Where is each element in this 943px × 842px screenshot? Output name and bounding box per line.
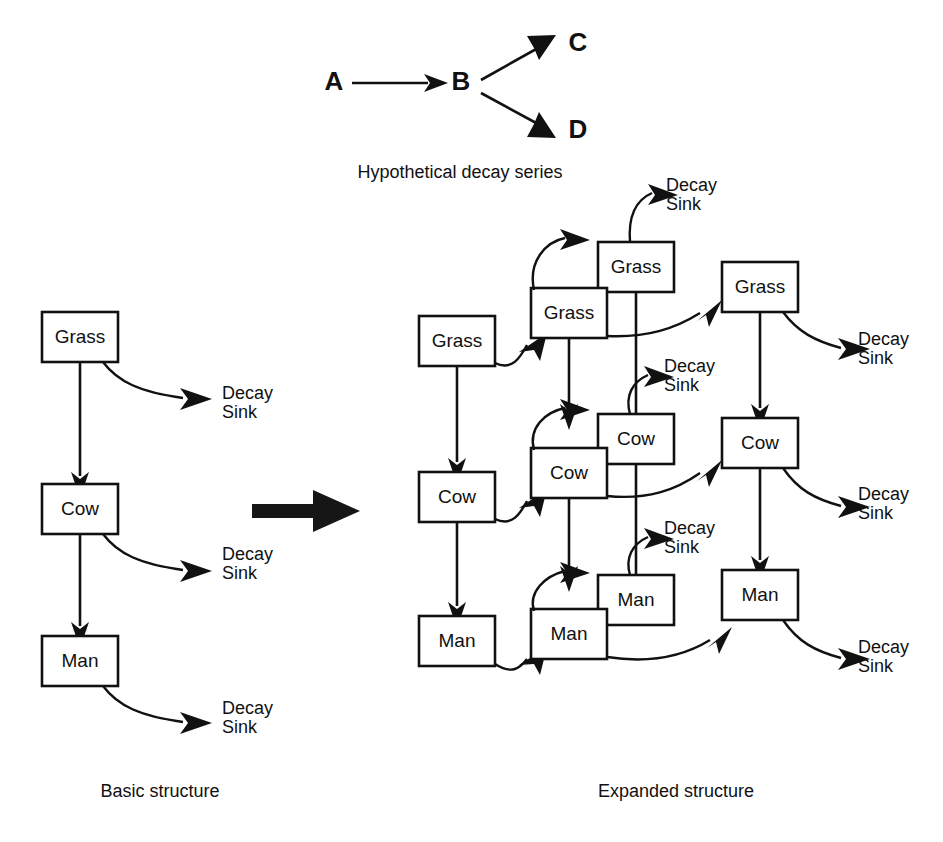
expanded-transfer-grass-daughter-to-gd [607, 300, 722, 336]
sink-text-line1: Decay [222, 698, 273, 718]
sink-text-line1: Decay [664, 518, 715, 538]
expanded-box-grass-daughter-back-label: Grass [611, 256, 662, 277]
expanded-transfer-grass-gd-cow-gd [751, 312, 769, 430]
basic-box-grass[interactable]: Grass [42, 312, 118, 362]
expanded-box-cow-gd-label: Cow [741, 432, 779, 453]
basic-sink-label-grass: Decay Sink [222, 383, 273, 422]
expanded-transfer-cow-gd-man-gd [751, 468, 769, 582]
sink-text-line1: Decay [222, 383, 273, 403]
sink-text-line2: Sink [222, 563, 258, 583]
basic-transfer-cow-man [71, 534, 89, 648]
expanded-box-man-gd[interactable]: Man [722, 570, 798, 620]
sink-text-line2: Sink [858, 503, 894, 523]
expanded-sink-arrow-cow-gd [783, 468, 870, 518]
decay-edge-b-c [481, 35, 556, 80]
expanded-box-man-daughter-back-label: Man [618, 589, 655, 610]
expanded-sink-label-man-daughter: Decay Sink [664, 518, 715, 557]
expanded-structure-caption: Expanded structure [598, 781, 754, 801]
expanded-box-cow-parent-label: Cow [438, 486, 476, 507]
expanded-structure: Grass Cow Man [419, 175, 909, 801]
decay-edge-a-b [352, 74, 448, 92]
expanded-box-grass-daughter-front-label: Grass [544, 302, 595, 323]
basic-structure: Grass Decay Sink Cow [42, 312, 273, 801]
expanded-sink-label-grass-daughter: Decay Sink [666, 175, 717, 214]
basic-box-grass-label: Grass [55, 326, 106, 347]
decay-series-caption: Hypothetical decay series [357, 162, 562, 182]
decay-node-a: A [325, 66, 344, 96]
basic-sink-arrow-grass [103, 362, 212, 410]
sink-text-line1: Decay [666, 175, 717, 195]
expanded-box-cow-gd[interactable]: Cow [722, 418, 798, 468]
expanded-box-man-daughter-back[interactable]: Man [598, 575, 674, 625]
expanded-box-cow-daughter-front[interactable]: Cow [531, 448, 607, 498]
basic-sink-label-man: Decay Sink [222, 698, 273, 737]
expanded-box-cow-parent[interactable]: Cow [419, 472, 495, 522]
expanded-transfer-cow-parent-man-parent [448, 522, 466, 628]
sink-text-line1: Decay [222, 544, 273, 564]
sink-text-line2: Sink [664, 537, 700, 557]
expanded-box-man-parent-label: Man [439, 630, 476, 651]
expanded-transfer-man-daughter-to-gd [607, 627, 732, 660]
basic-transfer-grass-cow [71, 362, 89, 498]
expanded-internal-arrow-grass [533, 229, 590, 290]
expanded-box-man-gd-label: Man [742, 584, 779, 605]
expanded-box-cow-daughter-front-label: Cow [550, 462, 588, 483]
expanded-sink-arrow-man-gd [783, 620, 870, 670]
sink-text-line2: Sink [222, 402, 258, 422]
expanded-box-grass-gd[interactable]: Grass [722, 262, 798, 312]
expanded-box-cow-daughter-back-label: Cow [617, 428, 655, 449]
sink-text-line1: Decay [858, 329, 909, 349]
basic-box-cow[interactable]: Cow [42, 484, 118, 534]
decay-node-d: D [569, 114, 588, 144]
expands-to-arrow [252, 490, 360, 532]
basic-box-man[interactable]: Man [42, 636, 118, 686]
basic-sink-arrow-cow [103, 534, 212, 582]
expanded-box-grass-parent-label: Grass [432, 330, 483, 351]
expanded-box-man-daughter-front[interactable]: Man [531, 609, 607, 659]
expanded-sink-label-cow-daughter: Decay Sink [664, 356, 715, 395]
expanded-sink-label-cow-gd: Decay Sink [858, 484, 909, 523]
decay-node-b: B [452, 66, 471, 96]
expanded-transfer-grass-parent-cow-parent [448, 366, 466, 484]
expanded-box-cow-daughter-back[interactable]: Cow [598, 414, 674, 464]
basic-structure-caption: Basic structure [100, 781, 219, 801]
expanded-box-grass-gd-label: Grass [735, 276, 786, 297]
sink-text-line1: Decay [664, 356, 715, 376]
figure-canvas: A B C D Hypothetical decay series Grass [0, 0, 943, 842]
expanded-transfer-cow-daughter-to-gd [607, 460, 722, 497]
sink-text-line2: Sink [664, 375, 700, 395]
basic-sink-arrow-man [103, 686, 212, 734]
expanded-box-grass-parent[interactable]: Grass [419, 316, 495, 366]
decay-node-c: C [569, 27, 588, 57]
expanded-sink-label-man-gd: Decay Sink [858, 637, 909, 676]
expanded-box-man-daughter-front-label: Man [551, 623, 588, 644]
expanded-box-grass-daughter-back[interactable]: Grass [598, 242, 674, 292]
basic-box-man-label: Man [62, 650, 99, 671]
sink-text-line2: Sink [858, 348, 894, 368]
sink-text-line1: Decay [858, 637, 909, 657]
basic-box-cow-label: Cow [61, 498, 99, 519]
expanded-box-grass-daughter-front[interactable]: Grass [531, 288, 607, 338]
sink-text-line2: Sink [666, 194, 702, 214]
expanded-sink-arrow-grass-gd [783, 312, 870, 360]
sink-text-line1: Decay [858, 484, 909, 504]
hypothetical-decay-series: A B C D Hypothetical decay series [325, 27, 588, 182]
decay-edge-b-d [481, 93, 556, 138]
expanded-sink-label-grass-gd: Decay Sink [858, 329, 909, 368]
basic-sink-label-cow: Decay Sink [222, 544, 273, 583]
sink-text-line2: Sink [222, 717, 258, 737]
expanded-box-man-parent[interactable]: Man [419, 616, 495, 666]
sink-text-line2: Sink [858, 656, 894, 676]
